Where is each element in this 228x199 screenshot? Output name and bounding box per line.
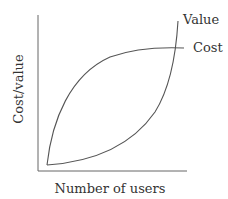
value-curve (47, 21, 178, 165)
value-label: Value (182, 12, 219, 27)
y-axis-label: Cost/value (11, 54, 26, 124)
cost-value-chart: Value Cost Number of users Cost/value (0, 0, 228, 199)
x-axis-label: Number of users (55, 181, 166, 196)
cost-label: Cost (193, 40, 223, 55)
